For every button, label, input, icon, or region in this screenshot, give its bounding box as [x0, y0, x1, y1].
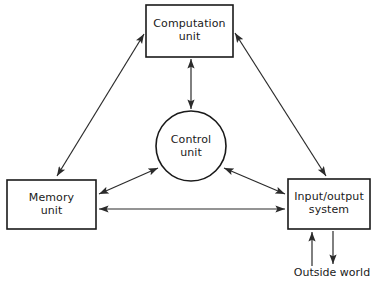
memory-unit-box[interactable] [7, 180, 96, 229]
outside-world-label: Outside world [292, 266, 372, 279]
connector-memory-to-control [99, 168, 158, 194]
diagram-canvas [0, 0, 376, 288]
computation-unit-box[interactable] [146, 5, 233, 57]
input-output-system-box[interactable] [288, 179, 370, 229]
connector-computation-to-io [235, 33, 326, 176]
block-diagram: Computation unit Control unit Memory uni… [0, 0, 376, 288]
connector-control-to-io [224, 168, 285, 194]
control-unit-circle[interactable] [156, 111, 226, 181]
connector-memory-to-computation [57, 34, 144, 176]
